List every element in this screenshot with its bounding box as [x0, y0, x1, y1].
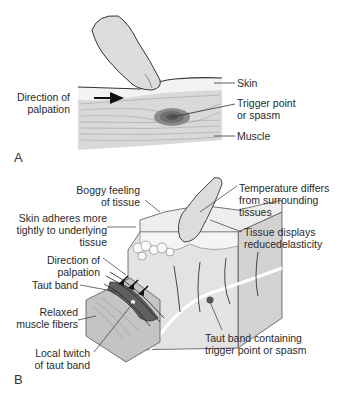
panel-label-b: B	[14, 372, 23, 387]
label-reduced-elasticity: Tissue displays reducedelasticity	[244, 226, 322, 250]
label-muscle: Muscle	[237, 130, 270, 142]
panel-a-tissue	[78, 16, 235, 150]
label-local-twitch: Local twitch of taut band	[20, 347, 90, 371]
label-taut-band-containing: Taut band containing trigger point or sp…	[205, 332, 307, 356]
label-skin: Skin	[237, 77, 257, 89]
label-relaxed-muscle-fibers: Relaxed muscle fibers	[0, 306, 78, 330]
label-skin-adheres: Skin adheres more tightly to underlying …	[0, 212, 107, 248]
label-direction-of-palpation-a: Direction of palpation	[8, 91, 70, 115]
panel-label-a: A	[14, 150, 23, 165]
label-trigger-point: Trigger point or spasm	[237, 97, 296, 121]
label-taut-band: Taut band	[20, 279, 78, 291]
label-direction-of-palpation-b: Direction of palpation	[40, 254, 100, 278]
label-temperature-differs: Temperature differs from surrounding tis…	[239, 182, 329, 218]
label-boggy-feeling: Boggy feeling of tissue	[70, 184, 140, 208]
